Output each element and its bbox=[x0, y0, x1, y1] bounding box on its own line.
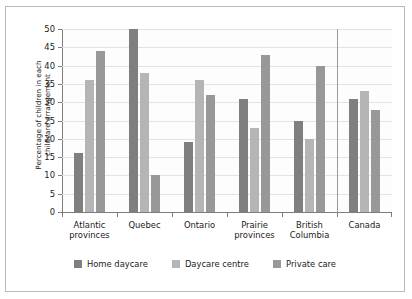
legend-item: Home daycare bbox=[74, 259, 148, 269]
y-axis-tick bbox=[58, 47, 62, 48]
x-axis-tick bbox=[227, 213, 228, 217]
y-axis-tick bbox=[58, 194, 62, 195]
y-axis-tick-label: 45 bbox=[44, 42, 55, 52]
x-axis-tick bbox=[172, 213, 173, 217]
x-axis-tick bbox=[391, 213, 392, 217]
bar bbox=[129, 29, 139, 212]
bar bbox=[261, 55, 271, 212]
bar bbox=[140, 73, 150, 212]
legend-swatch-icon bbox=[273, 260, 281, 268]
bar bbox=[239, 99, 249, 212]
y-axis-tick bbox=[58, 139, 62, 140]
gridline bbox=[62, 29, 392, 30]
gridline bbox=[62, 47, 392, 48]
y-axis-tick bbox=[58, 175, 62, 176]
bar bbox=[85, 80, 95, 212]
chart-figure: Percentage of children in each childcare… bbox=[5, 6, 405, 292]
y-axis-tick bbox=[58, 121, 62, 122]
bar bbox=[206, 95, 216, 212]
y-axis-tick bbox=[58, 102, 62, 103]
y-axis-tick-label: 5 bbox=[50, 189, 55, 199]
legend-item: Private care bbox=[273, 259, 336, 269]
x-axis-tick-label: Prairie provinces bbox=[234, 220, 274, 240]
x-axis-tick-label: Ontario bbox=[184, 220, 215, 230]
bar bbox=[184, 142, 194, 212]
bar bbox=[151, 175, 161, 212]
y-axis-tick bbox=[58, 84, 62, 85]
bar bbox=[360, 91, 370, 212]
y-axis-tick-label: 15 bbox=[44, 152, 55, 162]
legend-label: Private care bbox=[286, 259, 336, 269]
x-axis-tick bbox=[117, 213, 118, 217]
y-axis-tick-label: 10 bbox=[44, 170, 55, 180]
y-axis-tick bbox=[58, 29, 62, 30]
gridline bbox=[62, 157, 392, 158]
gridline bbox=[62, 84, 392, 85]
x-axis-tick bbox=[62, 213, 63, 217]
gridline bbox=[62, 102, 392, 103]
y-axis-tick-label: 30 bbox=[44, 97, 55, 107]
x-axis-tick-label: Atlantic provinces bbox=[69, 220, 109, 240]
legend-item: Daycare centre bbox=[172, 259, 249, 269]
y-axis-tick-label: 0 bbox=[50, 207, 55, 217]
y-axis-tick-label: 35 bbox=[44, 79, 55, 89]
bar bbox=[316, 66, 326, 212]
gridline bbox=[62, 194, 392, 195]
y-axis-title-line-1: Percentage of children in each bbox=[34, 27, 43, 203]
gridline bbox=[62, 175, 392, 176]
y-axis-tick-label: 50 bbox=[44, 24, 55, 34]
bar bbox=[195, 80, 205, 212]
legend-swatch-icon bbox=[172, 260, 180, 268]
x-axis-tick-label: Quebec bbox=[128, 220, 160, 230]
gridline bbox=[62, 66, 392, 67]
x-axis-tick-label: Canada bbox=[349, 220, 381, 230]
bar bbox=[371, 110, 381, 212]
chart-legend: Home daycareDaycare centrePrivate care bbox=[6, 259, 404, 269]
gridline bbox=[62, 121, 392, 122]
bar bbox=[305, 139, 315, 212]
legend-label: Daycare centre bbox=[185, 259, 249, 269]
y-axis-tick bbox=[58, 157, 62, 158]
group-separator bbox=[337, 29, 338, 213]
y-axis-title: Percentage of children in each childcare… bbox=[20, 0, 48, 25]
legend-swatch-icon bbox=[74, 260, 82, 268]
plot-area: 05101520253035404550Atlantic provincesQu… bbox=[62, 29, 392, 213]
bar bbox=[349, 99, 359, 212]
legend-label: Home daycare bbox=[87, 259, 148, 269]
y-axis-tick bbox=[58, 66, 62, 67]
x-axis-tick-label: British Columbia bbox=[290, 220, 330, 240]
bar bbox=[74, 153, 84, 212]
y-axis-tick-label: 40 bbox=[44, 61, 55, 71]
bar bbox=[250, 128, 260, 212]
y-axis-tick-label: 25 bbox=[44, 116, 55, 126]
x-axis-tick bbox=[337, 213, 338, 217]
bar bbox=[96, 51, 106, 212]
x-axis-tick bbox=[282, 213, 283, 217]
gridline bbox=[62, 139, 392, 140]
bar bbox=[294, 121, 304, 213]
y-axis-tick-label: 20 bbox=[44, 134, 55, 144]
